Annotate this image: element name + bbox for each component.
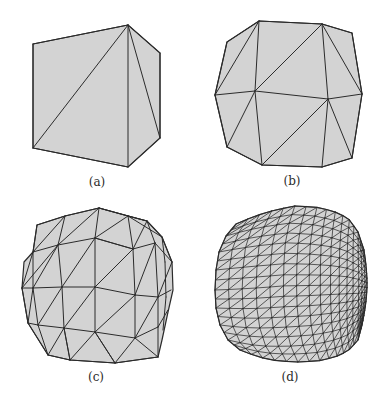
panel-label-b: (b) <box>283 175 300 187</box>
panel-label-d: (d) <box>281 371 298 383</box>
panel-label-a: (a) <box>89 176 106 188</box>
panel-label-c: (c) <box>88 371 104 383</box>
figure-mesh-subdivision: (a) (b) (c) (d) <box>0 0 386 402</box>
panel-d-dense-mesh <box>0 0 386 402</box>
